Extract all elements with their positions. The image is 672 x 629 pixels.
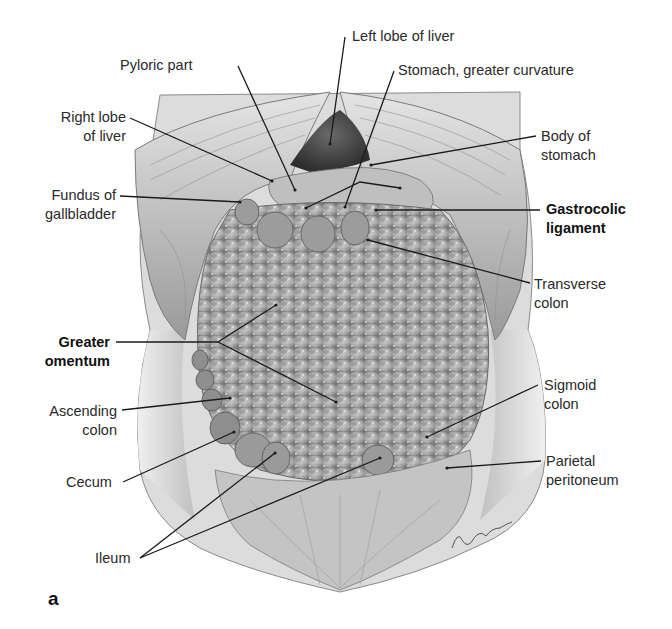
label-greater-omentum: Greater omentum <box>20 333 110 371</box>
label-left-lobe-of-liver: Left lobe of liver <box>352 27 454 46</box>
label-ascending-colon: Ascending colon <box>20 402 117 440</box>
panel-letter: a <box>48 588 59 610</box>
label-right-lobe-of-liver: Right lobe of liver <box>48 108 126 146</box>
label-stomach-greater-curvature: Stomach, greater curvature <box>398 61 574 80</box>
label-pyloric-part: Pyloric part <box>120 56 193 75</box>
label-sigmoid-colon: Sigmoid colon <box>544 376 596 414</box>
illustration <box>0 0 672 629</box>
label-cecum: Cecum <box>66 473 112 492</box>
anatomy-figure: Left lobe of liver Pyloric part Stomach,… <box>0 0 672 629</box>
label-parietal-peritoneum: Parietal peritoneum <box>546 452 619 490</box>
label-body-of-stomach: Body of stomach <box>541 127 596 165</box>
label-gastrocolic-ligament: Gastrocolic ligament <box>546 200 626 238</box>
label-fundus-of-gallbladder: Fundus of gallbladder <box>22 186 116 224</box>
label-ileum: Ileum <box>95 549 130 568</box>
label-transverse-colon: Transverse colon <box>534 275 606 313</box>
